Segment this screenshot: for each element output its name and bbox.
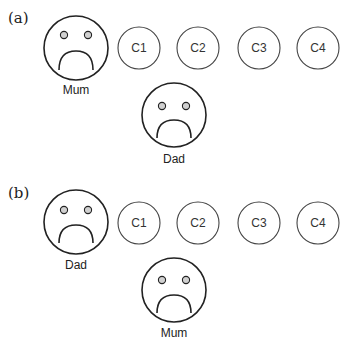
svg-text:C4: C4 [310,216,326,230]
svg-text:C2: C2 [190,41,206,55]
child-node-c3-a: C3 [238,27,280,69]
top-face-label-b: Dad [65,258,87,272]
sad-face-icon [142,258,206,322]
svg-text:C2: C2 [190,216,206,230]
top-face-label-a: Mum [63,83,90,97]
panel-label-a: (a) [8,9,29,27]
svg-text:C4: C4 [310,41,326,55]
child-node-c1-b: C1 [118,202,160,244]
panel-a: (a) Mum C1 C2 C3 C4 D [8,9,339,166]
panel-b: (b) Dad C1 C2 C3 C4 M [8,184,339,340]
svg-text:C3: C3 [251,216,267,230]
svg-text:C3: C3 [251,41,267,55]
child-node-c3-b: C3 [238,202,280,244]
sad-face-icon [142,83,206,147]
panel-label-b: (b) [8,184,29,202]
child-node-c4-b: C4 [297,202,339,244]
child-node-c1-a: C1 [118,27,160,69]
bottom-face-label-a: Dad [163,152,185,166]
child-node-c4-a: C4 [297,27,339,69]
child-node-c2-b: C2 [177,202,219,244]
svg-text:C1: C1 [131,41,147,55]
bottom-face-label-b: Mum [161,326,188,340]
svg-text:C1: C1 [131,216,147,230]
sad-face-icon [44,190,108,254]
child-node-c2-a: C2 [177,27,219,69]
sad-face-icon [44,16,108,80]
